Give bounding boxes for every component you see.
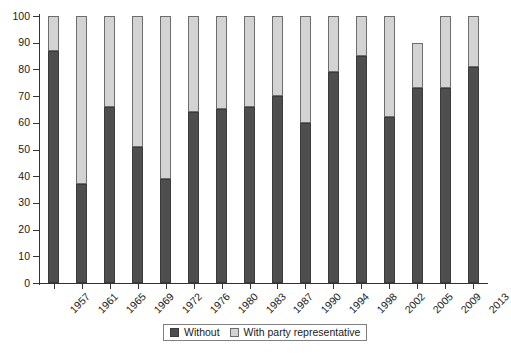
legend-item-without: Without	[170, 327, 220, 338]
legend-label-with-party-representative: With party representative	[244, 327, 361, 338]
bar-segment-without	[272, 96, 283, 283]
legend-item-with-party-representative: With party representative	[230, 327, 361, 338]
x-axis-tick-label: 1994	[347, 291, 371, 315]
x-axis-tick	[138, 284, 139, 289]
bar-segment-without	[188, 112, 199, 283]
bar-segment-without	[300, 123, 311, 283]
x-axis-tick-label: 1961	[96, 291, 120, 315]
y-axis-tick-label: 80	[0, 64, 30, 75]
x-axis-tick	[305, 284, 306, 289]
x-axis-tick-label: 1976	[207, 291, 231, 315]
light-swatch-icon	[230, 328, 239, 337]
y-axis-tick	[33, 69, 39, 70]
y-axis-tick	[33, 176, 39, 177]
y-axis-tick-label: 40	[0, 171, 30, 182]
bar-segment-without	[76, 184, 87, 283]
y-axis-tick-label: 90	[0, 37, 30, 48]
x-axis-tick-label: 2009	[459, 291, 483, 315]
bar-group	[468, 16, 479, 283]
bar-group	[132, 16, 143, 283]
x-axis-tick-label: 2002	[403, 291, 427, 315]
x-axis-tick-label: 2013	[487, 291, 511, 315]
bar-segment-without	[104, 107, 115, 283]
x-axis-tick-label: 2005	[431, 291, 455, 315]
y-axis-tick	[33, 203, 39, 204]
bar-segment-without	[48, 51, 59, 283]
x-axis-tick-label: 1957	[68, 291, 92, 315]
bar-segment-with-party-representative	[76, 16, 87, 184]
bar-segment-without	[244, 107, 255, 283]
bar-segment-with-party-representative	[440, 16, 451, 88]
bar-group	[104, 16, 115, 283]
bar-group	[300, 16, 311, 283]
y-axis-tick	[33, 123, 39, 124]
bar-segment-without	[328, 72, 339, 283]
x-axis-tick	[82, 284, 83, 289]
chart-legend: Without With party representative	[163, 324, 367, 341]
bar-group	[356, 16, 367, 283]
bar-segment-without	[160, 179, 171, 283]
x-axis-tick	[222, 284, 223, 289]
bar-segment-with-party-representative	[104, 16, 115, 107]
bar-segment-without	[356, 56, 367, 283]
bar-segment-without	[468, 67, 479, 283]
x-axis-tick	[417, 284, 418, 289]
bar-group	[328, 16, 339, 283]
x-axis-tick	[473, 284, 474, 289]
y-axis-tick	[33, 230, 39, 231]
x-axis-tick	[194, 284, 195, 289]
bar-group	[160, 16, 171, 283]
y-axis-tick	[33, 16, 39, 17]
bar-segment-without	[384, 117, 395, 283]
bar-segment-with-party-representative	[328, 16, 339, 72]
x-axis-tick	[333, 284, 334, 289]
x-axis-tick	[54, 284, 55, 289]
x-axis-tick	[389, 284, 390, 289]
bar-segment-without	[412, 88, 423, 283]
bar-segment-with-party-representative	[160, 16, 171, 179]
x-axis-tick	[361, 284, 362, 289]
bar-group	[412, 16, 423, 283]
x-axis-tick	[277, 284, 278, 289]
x-axis-tick-label: 1969	[152, 291, 176, 315]
bar-segment-with-party-representative	[132, 16, 143, 147]
bar-group	[244, 16, 255, 283]
bar-segment-with-party-representative	[412, 43, 423, 88]
bar-segment-with-party-representative	[272, 16, 283, 96]
y-axis-tick	[33, 150, 39, 151]
bar-group	[76, 16, 87, 283]
dark-swatch-icon	[170, 328, 179, 337]
y-axis-tick-label: 10	[0, 251, 30, 262]
x-axis-tick-label: 1972	[180, 291, 204, 315]
x-axis-tick-label: 1990	[319, 291, 343, 315]
x-axis-line	[39, 283, 488, 284]
bar-group	[272, 16, 283, 283]
y-axis-tick-label: 0	[0, 278, 30, 289]
y-axis-tick	[33, 256, 39, 257]
bar-segment-with-party-representative	[356, 16, 367, 56]
bar-group	[48, 16, 59, 283]
x-axis-tick	[445, 284, 446, 289]
bar-segment-without	[440, 88, 451, 283]
bar-segment-with-party-representative	[384, 16, 395, 117]
x-axis-tick-label: 1998	[375, 291, 399, 315]
bar-segment-with-party-representative	[300, 16, 311, 123]
y-axis-tick	[33, 283, 39, 284]
x-axis-tick-label: 1965	[124, 291, 148, 315]
bar-segment-with-party-representative	[188, 16, 199, 112]
bar-group	[188, 16, 199, 283]
x-axis-tick-label: 1980	[235, 291, 259, 315]
x-axis-tick-label: 1987	[291, 291, 315, 315]
y-axis-tick	[33, 96, 39, 97]
y-axis-tick	[33, 43, 39, 44]
x-axis-tick	[250, 284, 251, 289]
y-axis-tick-label: 100	[0, 11, 30, 22]
bar-segment-with-party-representative	[48, 16, 59, 51]
bar-group	[384, 16, 395, 283]
x-axis-tick-label: 1983	[263, 291, 287, 315]
bar-segment-with-party-representative	[468, 16, 479, 67]
x-axis-tick	[110, 284, 111, 289]
bar-group	[216, 16, 227, 283]
y-axis-tick-label: 50	[0, 144, 30, 155]
